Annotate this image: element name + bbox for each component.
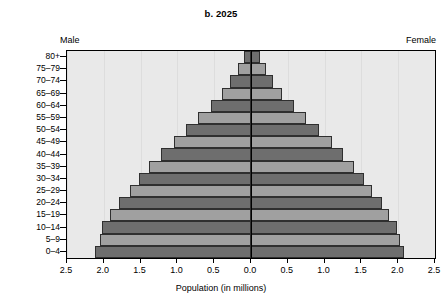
male-side-label: Male xyxy=(60,35,80,45)
y-tick-label-45-49: 45–49 xyxy=(0,136,60,146)
bar-female-60-64 xyxy=(251,100,294,112)
bar-male-75-79 xyxy=(238,63,251,75)
y-tick-label-40-44: 40–44 xyxy=(0,149,60,159)
x-tick-label: 0.5 xyxy=(196,265,230,275)
bar-male-70-74 xyxy=(230,75,251,87)
x-tick-label: 1.0 xyxy=(159,265,193,275)
y-tick-label-35-39: 35–39 xyxy=(0,161,60,171)
y-tick-label-65-69: 65–69 xyxy=(0,88,60,98)
x-tick-label: 0.0 xyxy=(233,265,267,275)
x-tick-mark xyxy=(250,258,251,263)
y-tick-label-50-54: 50–54 xyxy=(0,124,60,134)
x-tick-mark xyxy=(176,258,177,263)
bar-female-50-54 xyxy=(251,124,319,136)
bar-female-75-79 xyxy=(251,63,266,75)
x-tick-label: 2.0 xyxy=(86,265,120,275)
bar-male-35-39 xyxy=(149,161,251,173)
plot-area xyxy=(66,50,436,259)
bar-female-65-69 xyxy=(251,88,282,100)
y-tick-label-55-59: 55–59 xyxy=(0,112,60,122)
center-axis-line xyxy=(251,51,252,258)
x-tick-mark xyxy=(324,258,325,263)
bar-male-0-4 xyxy=(95,246,251,258)
y-tick-label-0-4: 0–4 xyxy=(0,246,60,256)
y-tick-label-60-64: 60–64 xyxy=(0,100,60,110)
bar-female-80+ xyxy=(251,51,260,63)
y-tick-label-10-14: 10–14 xyxy=(0,222,60,232)
bar-male-65-69 xyxy=(222,88,251,100)
bar-female-0-4 xyxy=(251,246,404,258)
bar-male-10-14 xyxy=(102,221,251,233)
x-tick-label: 0.5 xyxy=(270,265,304,275)
x-tick-label: 2.5 xyxy=(417,265,442,275)
bar-female-30-34 xyxy=(251,173,364,185)
bar-female-10-14 xyxy=(251,221,397,233)
y-tick-label-80+: 80+ xyxy=(0,51,60,61)
bar-female-70-74 xyxy=(251,75,273,87)
x-tick-mark xyxy=(213,258,214,263)
y-tick-label-5-9: 5–9 xyxy=(0,234,60,244)
x-tick-label: 2.0 xyxy=(380,265,414,275)
x-tick-mark xyxy=(66,258,67,263)
x-tick-mark xyxy=(360,258,361,263)
bar-male-40-44 xyxy=(161,148,251,160)
x-tick-label: 1.5 xyxy=(343,265,377,275)
y-tick-label-75-79: 75–79 xyxy=(0,63,60,73)
x-axis-ticks xyxy=(66,258,436,264)
bar-male-45-49 xyxy=(174,136,251,148)
bar-female-40-44 xyxy=(251,148,343,160)
gridline xyxy=(435,51,436,258)
bar-male-55-59 xyxy=(198,112,251,124)
x-tick-mark xyxy=(434,258,435,263)
bar-male-15-19 xyxy=(110,209,251,221)
bar-male-60-64 xyxy=(211,100,251,112)
bar-female-45-49 xyxy=(251,136,332,148)
bar-female-15-19 xyxy=(251,209,389,221)
x-tick-label: 1.5 xyxy=(123,265,157,275)
bar-male-50-54 xyxy=(186,124,251,136)
bar-male-25-29 xyxy=(130,185,251,197)
x-tick-mark xyxy=(287,258,288,263)
x-tick-label: 1.0 xyxy=(307,265,341,275)
female-side-label: Female xyxy=(406,35,436,45)
y-tick-label-70-74: 70–74 xyxy=(0,75,60,85)
x-tick-mark xyxy=(397,258,398,263)
y-tick-label-15-19: 15–19 xyxy=(0,209,60,219)
population-pyramid-figure: b. 2025 Male Female 0–45–910–1415–1920–2… xyxy=(0,0,442,307)
x-tick-label: 2.5 xyxy=(49,265,83,275)
bar-female-25-29 xyxy=(251,185,372,197)
x-axis-title: Population (in millions) xyxy=(0,283,442,293)
y-tick-label-25-29: 25–29 xyxy=(0,185,60,195)
x-axis-tick-labels: 2.52.01.51.00.50.00.51.01.52.02.5 xyxy=(66,265,436,279)
bar-female-35-39 xyxy=(251,161,354,173)
y-tick-label-30-34: 30–34 xyxy=(0,173,60,183)
y-axis-tick-labels: 0–45–910–1415–1920–2425–2930–3435–3940–4… xyxy=(0,50,60,257)
bar-male-30-34 xyxy=(139,173,251,185)
bar-female-55-59 xyxy=(251,112,306,124)
x-tick-mark xyxy=(103,258,104,263)
bar-female-5-9 xyxy=(251,234,400,246)
bar-male-5-9 xyxy=(100,234,251,246)
chart-title: b. 2025 xyxy=(0,8,442,19)
bar-female-20-24 xyxy=(251,197,382,209)
bar-male-20-24 xyxy=(119,197,251,209)
x-tick-mark xyxy=(140,258,141,263)
y-tick-label-20-24: 20–24 xyxy=(0,197,60,207)
